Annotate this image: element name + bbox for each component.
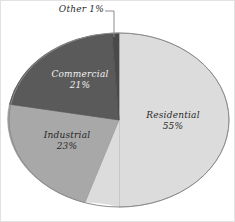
pie-chart: Other 1% Commercial 21% Industrial 23% R… (0, 0, 235, 222)
pie-slice-residential[interactable] (119, 33, 229, 207)
pie-chart-canvas (1, 1, 235, 222)
